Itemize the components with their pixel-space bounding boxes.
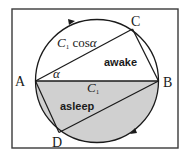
point-label-c: C: [131, 14, 140, 29]
sleep-wake-circle-diagram: A B C D C1 cosα α C1 awake asleep: [0, 0, 186, 161]
chord-ac-label: C1 cosα: [57, 35, 98, 51]
point-label-d: D: [52, 135, 62, 150]
angle-alpha-label: α: [53, 66, 61, 81]
asleep-region-label: asleep: [60, 100, 95, 112]
awake-region-label: awake: [104, 56, 137, 68]
point-label-a: A: [15, 74, 26, 89]
point-label-b: B: [163, 75, 172, 90]
